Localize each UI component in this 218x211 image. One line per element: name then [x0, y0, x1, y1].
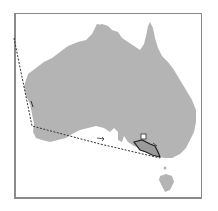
tasmania: [159, 174, 174, 192]
australia-mainland: [24, 22, 196, 158]
arrow-icon-east: [97, 137, 104, 141]
australia-map: [0, 0, 218, 211]
island: [164, 167, 167, 170]
location-marker: [141, 134, 146, 139]
island: [96, 24, 100, 28]
